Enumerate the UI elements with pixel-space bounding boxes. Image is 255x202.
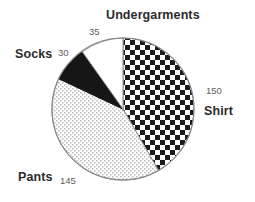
pie-label-socks: Socks <box>15 48 52 61</box>
pie-value-pants: 145 <box>60 176 76 186</box>
pie-value-undergarments: 35 <box>89 27 100 37</box>
pie-chart-figure: Undergarments 35 Socks 30 Pants 145 Shir… <box>0 0 255 202</box>
pie-label-shirt: Shirt <box>204 105 233 118</box>
pie-value-shirt: 150 <box>206 86 222 96</box>
pie-label-undergarments: Undergarments <box>106 9 200 22</box>
pie-label-pants: Pants <box>18 171 53 184</box>
pie-value-socks: 30 <box>58 48 69 58</box>
